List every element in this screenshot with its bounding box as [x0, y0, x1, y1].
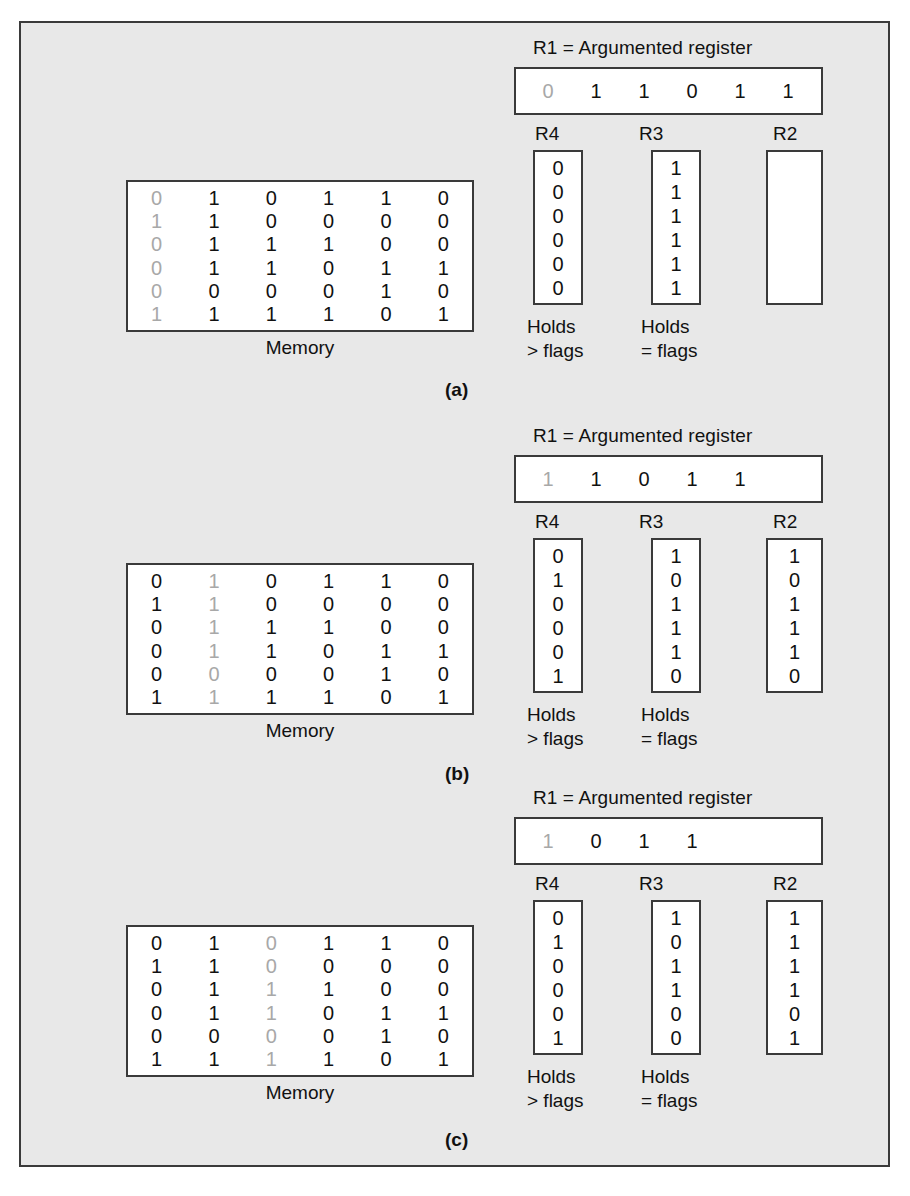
r4-bit: 0 [535, 228, 581, 252]
memory-cell: 0 [300, 1026, 357, 1046]
r4-bit: 1 [535, 664, 581, 688]
r3-bit: 0 [653, 568, 699, 592]
r4-bit: 0 [535, 180, 581, 204]
memory-cell: 1 [185, 1003, 242, 1023]
r3-bit: 1 [653, 592, 699, 616]
memory-cell: 0 [128, 641, 185, 661]
memory-cell: 1 [300, 1049, 357, 1069]
memory-cell: 0 [243, 188, 300, 208]
r2-bit: 1 [768, 592, 821, 616]
r3-bit: 1 [653, 906, 699, 930]
memory-cell: 1 [415, 304, 472, 324]
memory-row: 011100 [128, 616, 472, 639]
memory-cell: 1 [357, 188, 414, 208]
r1-bit: 0 [668, 81, 716, 101]
memory-cell: 0 [300, 258, 357, 278]
r3-bit: 1 [653, 228, 699, 252]
r4-bit: 0 [535, 156, 581, 180]
memory-row: 010110 [128, 569, 472, 592]
r3-header: R3 [639, 873, 663, 895]
memory-cell: 1 [185, 234, 242, 254]
r3-header: R3 [639, 511, 663, 533]
memory-cell: 0 [128, 281, 185, 301]
r2-bit: 1 [768, 906, 821, 930]
memory-cell: 1 [243, 687, 300, 707]
r2-bit: 1 [768, 640, 821, 664]
r3-bit: 1 [653, 276, 699, 300]
memory-cell: 1 [415, 641, 472, 661]
r3-box: 111111 [651, 150, 701, 305]
memory-cell: 0 [243, 571, 300, 591]
r2-bit: 0 [768, 1002, 821, 1026]
memory-cell: 0 [357, 234, 414, 254]
memory-row: 000010 [128, 279, 472, 302]
memory-cell: 1 [185, 188, 242, 208]
r1-bit: 1 [620, 81, 668, 101]
memory-cell: 1 [243, 234, 300, 254]
memory-label: Memory [126, 1082, 474, 1104]
r3-note: Holds = flags [641, 315, 698, 364]
r1-bit: 0 [572, 831, 620, 851]
memory-cell: 0 [415, 664, 472, 684]
memory-cell: 1 [185, 211, 242, 231]
memory-cell: 1 [128, 956, 185, 976]
r4-bit: 0 [535, 954, 581, 978]
memory-cell: 1 [300, 933, 357, 953]
memory-cell: 0 [357, 687, 414, 707]
r4-note: Holds > flags [527, 703, 584, 752]
r1-bit: 1 [716, 469, 764, 489]
memory-cell: 1 [243, 1003, 300, 1023]
memory-cell: 1 [357, 1026, 414, 1046]
memory-cell: 0 [300, 956, 357, 976]
r2-bit-list [768, 152, 821, 303]
r4-bit: 1 [535, 568, 581, 592]
r4-header: R4 [535, 123, 559, 145]
r1-title: R1 = Argumented register [533, 37, 752, 59]
r3-note: Holds = flags [641, 703, 698, 752]
r4-bit-list: 010001 [535, 902, 581, 1053]
memory-cell: 0 [357, 1049, 414, 1069]
memory-cell: 0 [300, 641, 357, 661]
memory-cell: 0 [415, 933, 472, 953]
memory-cell: 1 [357, 933, 414, 953]
r3-box: 101110 [651, 538, 701, 693]
panel-b: R1 = Argumented register 11011 R4 R3 R2 … [21, 411, 888, 803]
memory-cell: 1 [300, 304, 357, 324]
memory-cell: 1 [357, 1003, 414, 1023]
memory-cell: 0 [128, 1003, 185, 1023]
memory-cell: 1 [415, 1003, 472, 1023]
memory-cell: 0 [415, 234, 472, 254]
memory-box: 010110110000011100011011000010111101 [126, 180, 474, 332]
r4-bit: 0 [535, 544, 581, 568]
memory-cell: 1 [128, 211, 185, 231]
memory-cell: 0 [185, 1026, 242, 1046]
memory-row: 000010 [128, 662, 472, 685]
r2-header: R2 [773, 123, 797, 145]
r2-header: R2 [773, 511, 797, 533]
r3-bit-list: 101110 [653, 540, 699, 691]
panel-a: R1 = Argumented register 011011 R4 R3 R2… [21, 23, 888, 423]
r1-register-box: 11011 [514, 455, 823, 503]
r4-bit: 1 [535, 930, 581, 954]
r2-box: 101110 [766, 538, 823, 693]
memory-label: Memory [126, 337, 474, 359]
memory-grid: 010110110000011100011011000010111101 [128, 565, 472, 713]
r1-bit: 1 [620, 831, 668, 851]
r4-bit: 0 [535, 252, 581, 276]
memory-cell: 0 [128, 933, 185, 953]
r3-bit: 0 [653, 664, 699, 688]
memory-cell: 0 [415, 1026, 472, 1046]
r4-bit: 0 [535, 204, 581, 228]
memory-cell: 1 [128, 687, 185, 707]
r3-bit-list: 101100 [653, 902, 699, 1053]
memory-cell: 1 [415, 1049, 472, 1069]
memory-cell: 0 [243, 956, 300, 976]
memory-cell: 0 [300, 664, 357, 684]
r3-bit: 1 [653, 978, 699, 1002]
memory-cell: 0 [243, 211, 300, 231]
memory-cell: 1 [357, 258, 414, 278]
memory-cell: 0 [357, 211, 414, 231]
memory-cell: 1 [185, 1049, 242, 1069]
memory-cell: 0 [128, 571, 185, 591]
memory-row: 011100 [128, 233, 472, 256]
